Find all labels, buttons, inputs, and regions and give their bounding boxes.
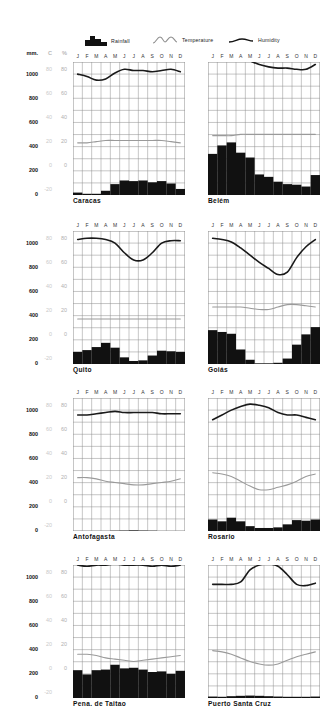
month-label: D [311, 556, 320, 562]
humidity-line-icon [228, 35, 254, 45]
month-label: J [73, 389, 82, 395]
month-label: J [255, 389, 264, 395]
month-label: J [129, 53, 138, 59]
month-label: J [208, 222, 217, 228]
month-label: J [264, 53, 273, 59]
month-label: A [101, 53, 110, 59]
month-label: J [73, 222, 82, 228]
month-label: D [311, 389, 320, 395]
month-label: J [264, 222, 273, 228]
month-label: J [264, 556, 273, 562]
axis-tick-mm: 800 [29, 265, 38, 270]
month-label: F [217, 222, 226, 228]
axis-tick-mm: 200 [29, 671, 38, 676]
grid-lines [73, 62, 185, 195]
month-label: F [82, 222, 91, 228]
month-label: A [236, 53, 245, 59]
axis-tick-percent: 80 [61, 403, 67, 408]
month-label: N [166, 556, 175, 562]
month-label: D [176, 53, 185, 59]
axis-tick-mm: 200 [29, 168, 38, 173]
legend-label-temperature: Temperature [182, 37, 213, 43]
axis-column-mm: 10008006004002000 [2, 219, 38, 366]
month-axis: JFMAMJJASOND [73, 53, 185, 59]
panel-title: Belém [208, 197, 230, 204]
climate-chart-panel: JFMAMJJASONDBelém [208, 53, 320, 208]
axis-tick-percent: 40 [61, 284, 67, 289]
month-label: M [227, 53, 236, 59]
axis-tick-mm: 600 [29, 289, 38, 294]
month-label: J [208, 389, 217, 395]
axis-tick-mm: 800 [29, 96, 38, 101]
axis-column-celsius: 806040200-20 [38, 219, 52, 366]
rainfall-bars [73, 665, 185, 698]
month-label: D [311, 53, 320, 59]
plot-area [73, 62, 185, 195]
month-label: S [148, 222, 157, 228]
month-label: J [73, 556, 82, 562]
plot-area [73, 398, 185, 531]
axis-column-percent: 806040200 [52, 219, 67, 366]
grid-lines [73, 231, 185, 364]
month-label: M [245, 556, 254, 562]
plot-area [208, 62, 320, 195]
month-label: O [292, 556, 301, 562]
legend-item-temperature: Temperature [152, 35, 213, 45]
month-label: M [92, 53, 101, 59]
plot-area [208, 231, 320, 364]
month-label: O [157, 389, 166, 395]
month-label: S [283, 389, 292, 395]
month-label: S [148, 556, 157, 562]
panel-title: Quito [73, 366, 92, 373]
chart-legend: Rainfall Temperature Humidity [0, 34, 330, 50]
month-label: N [301, 222, 310, 228]
month-label: S [283, 222, 292, 228]
climate-chart-panel: JFMAMJJASONDRosario [208, 389, 320, 544]
axis-tick-mm: 800 [29, 432, 38, 437]
axis-tick-percent: 20 [61, 139, 67, 144]
month-label: O [292, 53, 301, 59]
month-label: S [283, 53, 292, 59]
axis-column-mm: 10008006004002000 [2, 553, 38, 700]
axis-tick-mm: 400 [29, 480, 38, 485]
axis-header-mm: mm. [26, 50, 38, 56]
month-label: N [166, 53, 175, 59]
month-label: S [148, 389, 157, 395]
month-label: M [92, 389, 101, 395]
month-label: F [82, 53, 91, 59]
month-label: M [110, 222, 119, 228]
axis-tick-percent: 40 [61, 451, 67, 456]
axis-tick-percent: 20 [61, 308, 67, 313]
month-label: D [176, 556, 185, 562]
axis-tick-mm: 400 [29, 647, 38, 652]
legend-item-humidity: Humidity [228, 35, 280, 45]
month-label: M [245, 222, 254, 228]
month-label: M [227, 556, 236, 562]
month-label: F [82, 389, 91, 395]
month-label: O [157, 556, 166, 562]
month-label: M [92, 556, 101, 562]
month-label: A [101, 222, 110, 228]
axis-column-celsius: C806040200-20 [38, 50, 52, 197]
month-label: A [273, 389, 282, 395]
axis-tick-percent: 0 [64, 666, 67, 671]
panel-title: Goiás [208, 366, 228, 373]
month-label: J [264, 389, 273, 395]
panel-title: Puerto Santa Cruz [208, 700, 271, 707]
month-label: F [217, 556, 226, 562]
axis-tick-percent: 60 [61, 91, 67, 96]
axis-tick-percent: 80 [61, 570, 67, 575]
axis-tick-percent: 40 [61, 115, 67, 120]
axis-tick-mm: 1000 [26, 408, 38, 413]
climate-chart-panel: JFMAMJJASONDGoiás [208, 222, 320, 377]
month-label: S [148, 53, 157, 59]
month-label: M [245, 53, 254, 59]
month-label: M [227, 222, 236, 228]
month-label: M [110, 53, 119, 59]
month-label: F [82, 556, 91, 562]
month-axis: JFMAMJJASOND [73, 222, 185, 228]
axis-header-percent: % [62, 50, 67, 56]
month-label: J [120, 53, 129, 59]
month-label: F [217, 389, 226, 395]
month-label: M [227, 389, 236, 395]
